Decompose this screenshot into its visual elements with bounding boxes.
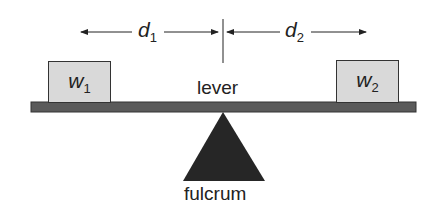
weight-label-w1: w1 [68, 69, 90, 96]
weight-box-w2: w2 [336, 60, 399, 103]
weight-box-w1: w1 [48, 61, 111, 103]
lever-label: lever [197, 78, 238, 97]
fulcrum-triangle [183, 112, 265, 181]
weight-label-w2: w2 [356, 68, 378, 95]
distance-label-d2: d2 [285, 19, 304, 44]
distance-label-d1: d1 [138, 19, 157, 44]
lever-bar [31, 102, 416, 112]
fulcrum-label: fulcrum [184, 184, 246, 203]
